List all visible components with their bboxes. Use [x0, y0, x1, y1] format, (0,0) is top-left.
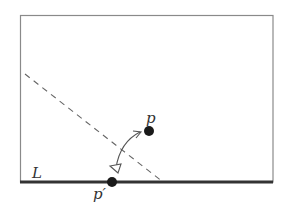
- label-L: L: [31, 164, 42, 182]
- point-p: [144, 126, 154, 136]
- frame-rectangle: [21, 16, 274, 183]
- label-p-prime: p′: [93, 185, 107, 203]
- point-p-prime: [107, 177, 117, 187]
- reflection-diagram: p L p′: [0, 0, 287, 213]
- dashed-mirror-line: [25, 74, 163, 182]
- arrowhead-to-p-icon: [133, 131, 141, 138]
- label-p: p: [146, 109, 156, 127]
- arrowhead-to-p-prime-icon: [110, 164, 121, 173]
